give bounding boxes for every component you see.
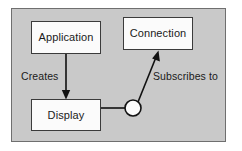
node-application[interactable]: Application: [31, 21, 101, 54]
diagram-canvas: Application Connection Display Creates S…: [0, 0, 242, 151]
node-connection-label: Connection: [130, 28, 187, 39]
node-display-label: Display: [48, 110, 85, 121]
node-application-label: Application: [39, 32, 94, 43]
edge-label-creates: Creates: [21, 71, 58, 82]
edge-label-subscribes-to: Subscribes to: [153, 71, 218, 82]
node-connection[interactable]: Connection: [123, 17, 193, 50]
node-display[interactable]: Display: [31, 99, 101, 131]
